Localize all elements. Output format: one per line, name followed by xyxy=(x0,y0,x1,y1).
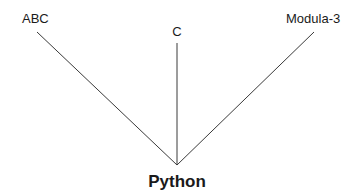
edge-modula3-python xyxy=(177,32,314,165)
edge-abc-python xyxy=(37,32,177,165)
node-abc: ABC xyxy=(22,11,49,26)
node-modula3: Modula-3 xyxy=(286,11,340,26)
node-c: C xyxy=(172,24,181,39)
influence-diagram: ABC C Modula-3 Python xyxy=(0,0,354,195)
node-python: Python xyxy=(148,172,206,191)
